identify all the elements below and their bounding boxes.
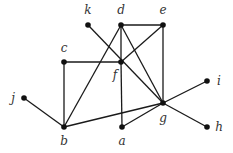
edge-g-i (163, 81, 207, 103)
edge-b-g (64, 103, 163, 127)
node-label-j: j (8, 91, 15, 105)
node-c (61, 59, 67, 65)
node-k (85, 22, 91, 28)
node-b (61, 124, 67, 130)
node-f (118, 59, 124, 65)
node-label-h: h (215, 120, 223, 134)
node-label-e: e (159, 3, 166, 17)
edge-d-g (121, 25, 163, 103)
node-a (119, 124, 125, 130)
node-label-i: i (217, 74, 221, 88)
node-label-g: g (159, 111, 167, 125)
node-i (204, 78, 210, 84)
labels-group: abcdefghijk (8, 3, 223, 148)
node-e (160, 22, 166, 28)
node-label-a: a (118, 134, 125, 148)
edge-f-a (121, 62, 122, 127)
edge-e-f (121, 25, 163, 62)
node-h (204, 124, 210, 130)
node-j (21, 95, 27, 101)
edge-g-h (163, 103, 207, 127)
node-label-c: c (61, 41, 68, 55)
graph-diagram: abcdefghijk (0, 0, 233, 153)
edge-a-g (122, 103, 163, 127)
node-label-b: b (60, 134, 68, 148)
edge-j-b (24, 98, 64, 127)
node-g (160, 100, 166, 106)
node-label-k: k (84, 3, 91, 17)
node-d (118, 22, 124, 28)
node-label-f: f (112, 68, 120, 82)
node-label-d: d (117, 3, 125, 17)
